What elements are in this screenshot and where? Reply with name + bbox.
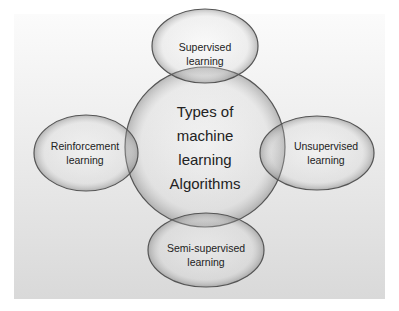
supervised-label: Supervised learning <box>179 40 232 68</box>
supervised-line-2: learning <box>179 54 232 68</box>
center-line-2: machine <box>170 124 241 148</box>
center-line-1: Types of <box>170 100 241 124</box>
unsupervised-line-1: Unsupervised <box>294 139 358 153</box>
unsupervised-line-2: learning <box>294 153 358 167</box>
reinforcement-line-1: Reinforcement <box>51 139 119 153</box>
semi-supervised-line-1: Semi-supervised <box>167 241 245 255</box>
center-label: Types of machine learning Algorithms <box>170 100 241 196</box>
center-line-4: Algorithms <box>170 172 241 196</box>
unsupervised-label: Unsupervised learning <box>294 139 358 167</box>
reinforcement-label: Reinforcement learning <box>51 139 119 167</box>
semi-supervised-label: Semi-supervised learning <box>167 241 245 269</box>
center-line-3: learning <box>170 148 241 172</box>
semi-supervised-line-2: learning <box>167 255 245 269</box>
supervised-line-1: Supervised <box>179 40 232 54</box>
reinforcement-line-2: learning <box>51 153 119 167</box>
